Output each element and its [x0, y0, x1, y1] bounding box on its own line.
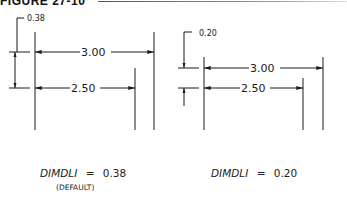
- caption-value: 0.38: [103, 167, 126, 179]
- caption-equals: =: [86, 167, 95, 179]
- caption-value: 0.20: [274, 167, 297, 179]
- caption-right: DIMDLI = 0.20: [211, 167, 297, 179]
- caption-left: DIMDLI = 0.38: [40, 167, 126, 179]
- caption-equals: =: [257, 167, 266, 179]
- dimension-text-2-50-left: 2.50: [71, 82, 96, 95]
- leader-line: [184, 32, 192, 40]
- caption-variable: DIMDLI: [40, 167, 77, 179]
- dimension-text-3-00-right: 3.00: [250, 62, 275, 75]
- dimension-text-2-50-right: 2.50: [241, 82, 266, 95]
- panel-left: [9, 18, 154, 130]
- spacing-label-left: 0.38: [27, 14, 45, 23]
- spacing-label-right: 0.20: [199, 29, 217, 38]
- leader-line: [17, 18, 24, 24]
- caption-variable: DIMDLI: [211, 167, 248, 179]
- panel-right: [178, 32, 323, 130]
- dimension-text-3-00-left: 3.00: [81, 46, 106, 59]
- caption-note: (DEFAULT): [56, 183, 94, 192]
